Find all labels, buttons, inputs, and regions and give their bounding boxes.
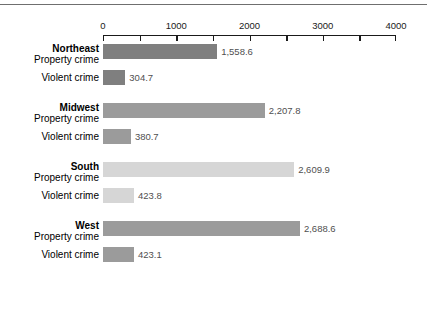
series-label: Violent crime [0,72,99,83]
series-label: Violent crime [0,249,99,260]
bar[interactable] [103,129,131,144]
series-label: Violent crime [0,131,99,142]
x-axis-tick [140,35,141,41]
bar[interactable] [103,221,300,236]
bar-value-label: 2,609.9 [298,164,330,175]
x-axis-tick [250,35,251,41]
x-axis-tick [286,35,287,41]
row-label-block: Violent crime [0,131,99,142]
bar-track: 2,207.8 [103,103,427,127]
header-divider [0,4,427,5]
chart-row: WestProperty crime2,688.6 [0,221,427,245]
region-label: Midwest [0,102,99,113]
row-label-block: Violent crime [0,249,99,260]
bar[interactable] [103,162,294,177]
chart-groups: NortheastProperty crime1,558.6Violent cr… [0,44,427,280]
bar-track: 380.7 [103,127,427,151]
bar[interactable] [103,44,217,59]
bar-track: 423.1 [103,245,427,269]
row-label-block: Violent crime [0,190,99,201]
bar-track: 1,558.6 [103,44,427,68]
row-label-block: NortheastProperty crime [0,43,99,65]
row-label-block: Violent crime [0,72,99,83]
bar[interactable] [103,70,125,85]
chart-group: MidwestProperty crime2,207.8Violent crim… [0,103,427,151]
x-axis-tick [323,35,324,41]
chart-group: NortheastProperty crime1,558.6Violent cr… [0,44,427,92]
row-label-block: SouthProperty crime [0,161,99,183]
chart-row: SouthProperty crime2,609.9 [0,162,427,186]
row-label-block: MidwestProperty crime [0,102,99,124]
bar-value-label: 423.8 [138,190,162,201]
x-axis-tick [213,35,214,41]
x-axis-tick-label: 3000 [312,20,333,31]
bar-track: 2,688.6 [103,221,427,245]
bar-track: 304.7 [103,68,427,92]
series-label: Property crime [0,231,99,242]
region-label: Northeast [0,43,99,54]
bar-value-label: 1,558.6 [221,46,253,57]
x-axis-tick-label: 1000 [166,20,187,31]
bar-value-label: 423.1 [138,249,162,260]
bar[interactable] [103,247,134,262]
series-label: Property crime [0,54,99,65]
chart-row: Violent crime304.7 [0,68,427,92]
series-label: Property crime [0,113,99,124]
x-axis-tick [103,35,104,41]
region-label: South [0,161,99,172]
series-label: Property crime [0,172,99,183]
x-axis-tick-labels: 01000200030004000 [103,20,396,33]
chart-row: Violent crime423.1 [0,245,427,269]
bar-value-label: 2,688.6 [304,223,336,234]
chart-group: WestProperty crime2,688.6Violent crime42… [0,221,427,269]
bar-track: 423.8 [103,186,427,210]
row-label-block: WestProperty crime [0,220,99,242]
bar[interactable] [103,188,134,203]
x-axis-tick [176,35,177,41]
series-label: Violent crime [0,190,99,201]
bar-track: 2,609.9 [103,162,427,186]
x-axis-tick [395,35,396,41]
x-axis-tick [359,35,360,41]
x-axis: 01000200030004000 [103,20,396,42]
bar[interactable] [103,103,265,118]
x-axis-tick-label: 2000 [239,20,260,31]
region-label: West [0,220,99,231]
x-axis-tick-label: 0 [100,20,105,31]
chart-row: Violent crime380.7 [0,127,427,151]
bar-value-label: 2,207.8 [269,105,301,116]
bar-value-label: 380.7 [135,131,159,142]
crime-rate-bar-chart: 01000200030004000 NortheastProperty crim… [0,0,427,309]
chart-row: MidwestProperty crime2,207.8 [0,103,427,127]
chart-row: Violent crime423.8 [0,186,427,210]
chart-row: NortheastProperty crime1,558.6 [0,44,427,68]
bar-value-label: 304.7 [129,72,153,83]
x-axis-tick-label: 4000 [385,20,406,31]
chart-group: SouthProperty crime2,609.9Violent crime4… [0,162,427,210]
